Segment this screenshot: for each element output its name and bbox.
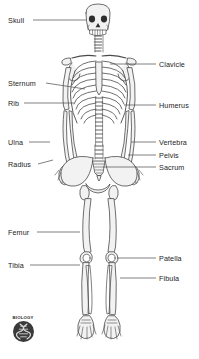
label-sacrum: Sacrum xyxy=(159,164,184,171)
label-sternum: Sternum xyxy=(8,80,36,87)
label-femur: Femur xyxy=(8,229,29,236)
leader-line-radius xyxy=(38,160,53,164)
label-clavicle: Clavicle xyxy=(159,61,185,68)
skeleton-diagram: SkullSternumRibUlnaRadiusFemurTibia Clav… xyxy=(0,0,199,359)
label-humerus: Humerus xyxy=(159,102,189,109)
skull-bone xyxy=(86,4,110,36)
label-ulna: Ulna xyxy=(8,139,23,146)
thoracic-vertebrae xyxy=(95,97,102,145)
label-pelvis: Pelvis xyxy=(159,152,179,159)
sternum-bone xyxy=(96,62,102,95)
label-radius: Radius xyxy=(8,161,31,168)
label-patella: Patella xyxy=(159,255,182,262)
foot-bones xyxy=(77,316,121,339)
sacrum-bone xyxy=(93,161,105,181)
label-skull: Skull xyxy=(8,17,24,24)
dna-helix-icon xyxy=(13,321,34,342)
label-fibula: Fibula xyxy=(159,275,179,282)
label-tibia: Tibia xyxy=(8,262,24,269)
label-rib: Rib xyxy=(8,100,19,107)
skeleton-illustration xyxy=(0,0,199,359)
lower-leg-bones xyxy=(82,263,117,315)
patella-bone xyxy=(80,252,118,264)
biology-logo-caption: BIOLOGY xyxy=(8,316,38,320)
cervical-vertebrae xyxy=(94,36,103,53)
leader-lines xyxy=(24,20,156,278)
label-vertebra: Vertebra xyxy=(159,139,187,146)
femur-bone xyxy=(80,186,119,253)
lumbar-vertebrae xyxy=(95,145,103,159)
biology-logo: BIOLOGY xyxy=(8,316,38,350)
